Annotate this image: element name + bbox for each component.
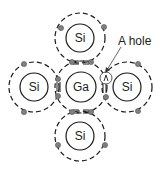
right-si-label: Si <box>122 80 133 94</box>
ga-label: Ga <box>73 80 89 94</box>
top-si-label: Si <box>75 31 86 45</box>
hole-annotation: A hole <box>118 34 152 48</box>
bottom-si-label: Si <box>75 129 86 143</box>
ga-doped-si-lattice-diagram: Si Si Ga Si Si A hole <box>0 0 164 173</box>
hole-arrow <box>107 47 121 70</box>
left-si-label: Si <box>29 80 40 94</box>
